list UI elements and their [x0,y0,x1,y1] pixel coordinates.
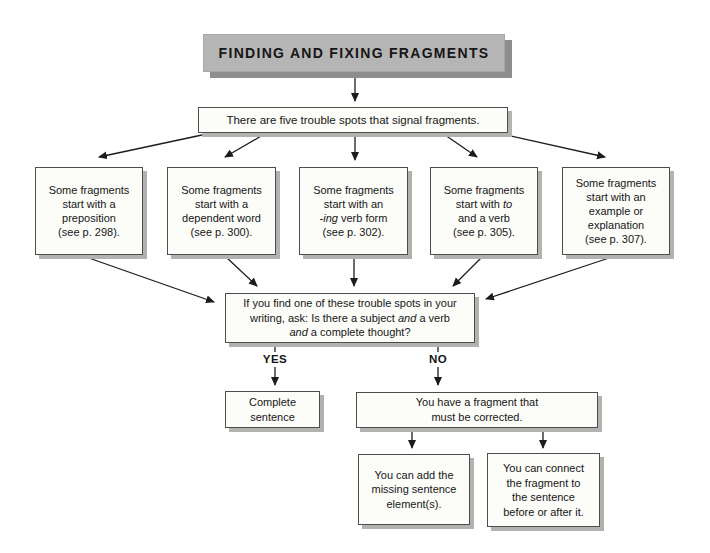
arrow-spot-5-to-question [486,257,612,299]
flow-arrows [0,0,710,553]
arrow-spot-2-to-question [226,257,257,286]
arrow-spot-1-to-question [86,257,214,302]
arrow-intro-to-spot-5 [506,135,605,157]
yes-label: YES [257,353,293,365]
fix-add-box: You can add themissing sentenceelement(s… [358,454,470,525]
fragment-box: You have a fragment thatmust be correcte… [356,392,598,428]
arrow-intro-to-spot-1 [99,135,202,157]
spot-box-dependent-word: Some fragmentsstart with adependent word… [167,167,276,255]
spot-box-to-and-a-verb: Some fragmentsstart with toand a verb(se… [430,167,538,255]
spot-box-example-or-explanation: Some fragmentsstart with anexample orexp… [562,167,670,255]
complete-sentence-box: Completesentence [225,391,320,428]
fragments-flowchart: FINDING AND FIXING FRAGMENTS There are f… [0,0,710,553]
no-label: NO [420,353,456,365]
arrow-spot-4-to-question [453,257,482,286]
question-box: If you find one of these trouble spots i… [225,293,475,343]
arrow-intro-to-spot-4 [445,135,477,157]
intro-box: There are five trouble spots that signal… [198,107,508,133]
arrow-intro-to-spot-2 [225,135,263,157]
spot-box-ing-verb-form: Some fragmentsstart with an-ing verb for… [299,167,408,255]
fix-connect-box: You can connectthe fragment tothe senten… [487,453,600,527]
spot-box-preposition: Some fragmentsstart with apreposition(se… [35,167,143,255]
title-box: FINDING AND FIXING FRAGMENTS [203,34,505,72]
